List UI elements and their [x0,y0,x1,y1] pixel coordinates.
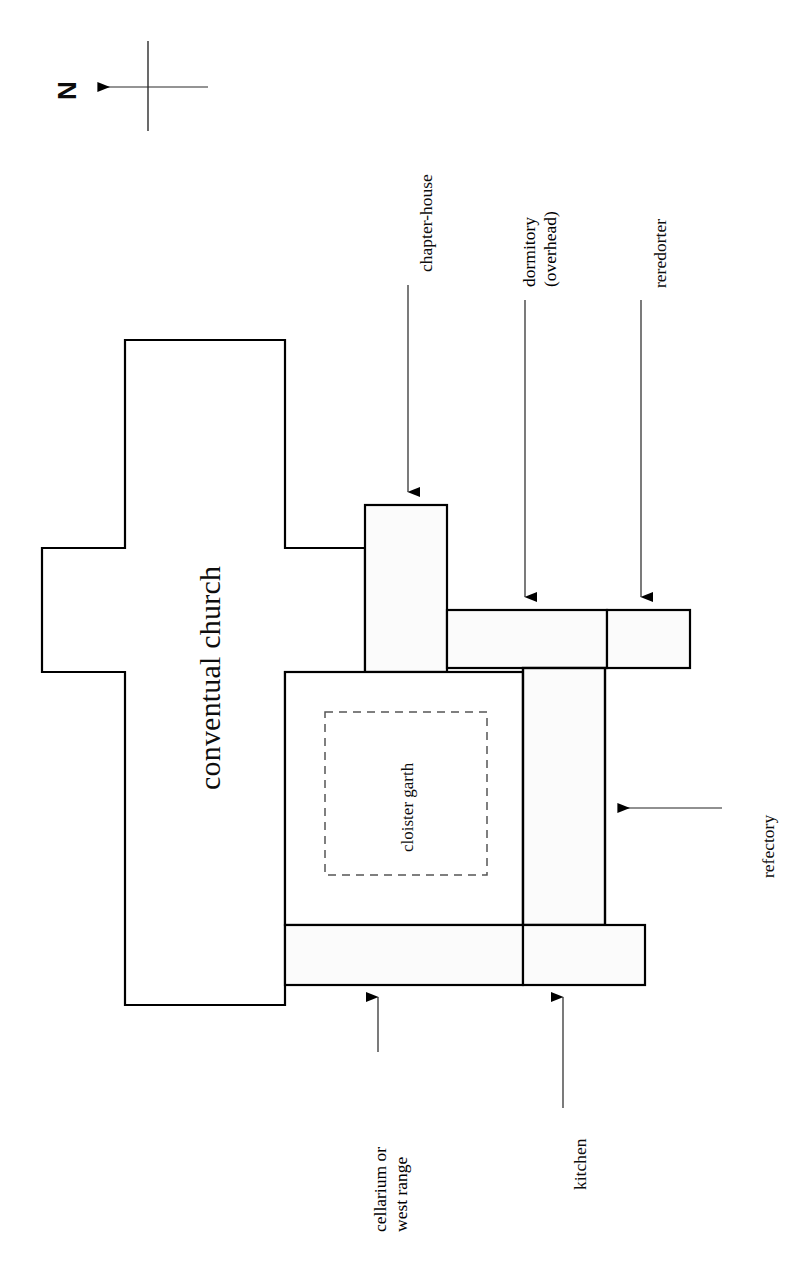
label-dormitory-group: dormitory (overhead) [519,211,561,287]
label-west-range: west range [391,1147,412,1232]
label-dormitory-overhead: (overhead) [540,211,561,287]
label-conventual-church: conventual church [192,566,227,790]
room-chapter-house [365,505,447,672]
label-dormitory: dormitory [519,211,540,287]
room-reredorter [607,610,690,668]
north-label: N [52,81,83,100]
label-cellarium-group: cellarium or west range [370,1147,412,1232]
label-kitchen: kitchen [570,1138,591,1190]
floor-plan-drawing [0,0,787,1270]
monastic-plan-figure: N conventual church cloister garth chapt… [0,0,787,1270]
label-cloister-garth: cloister garth [398,763,418,852]
label-reredorter: reredorter [650,219,671,288]
north-arrow-icon [98,41,208,131]
label-chapter-house: chapter-house [416,174,437,272]
room-refectory [523,668,605,925]
label-refectory: refectory [758,815,779,878]
room-cellarium-west-range [285,925,523,985]
room-kitchen [523,925,645,985]
room-dormitory [447,610,607,668]
label-cellarium: cellarium or [370,1147,391,1232]
